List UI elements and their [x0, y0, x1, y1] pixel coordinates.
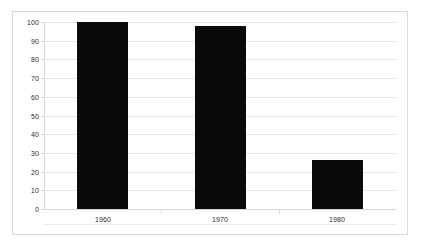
x-tick-label: 1960: [83, 216, 123, 223]
chart-container: 0102030405060708090100 196019701980: [12, 11, 408, 235]
y-tick-label: 30: [15, 150, 39, 157]
y-tick-mark: [41, 59, 44, 60]
y-tick-mark: [41, 134, 44, 135]
y-tick-label: 100: [15, 19, 39, 26]
bar[interactable]: [77, 22, 128, 209]
y-tick-mark: [41, 153, 44, 154]
x-tick-label: 1980: [317, 216, 357, 223]
y-tick-mark: [41, 97, 44, 98]
gridline: [44, 209, 396, 210]
bar[interactable]: [312, 160, 363, 209]
plot-area: [44, 22, 396, 209]
y-tick-label: 70: [15, 75, 39, 82]
y-tick-mark: [41, 41, 44, 42]
y-tick-label: 20: [15, 169, 39, 176]
y-tick-mark: [41, 190, 44, 191]
y-tick-mark: [41, 22, 44, 23]
x-axis-line: [44, 224, 396, 225]
y-tick-mark: [41, 78, 44, 79]
bar[interactable]: [195, 26, 246, 209]
y-tick-label: 50: [15, 113, 39, 120]
x-tick-mark: [161, 210, 162, 214]
y-tick-label: 90: [15, 38, 39, 45]
y-tick-label: 10: [15, 187, 39, 194]
y-tick-label: 80: [15, 56, 39, 63]
y-tick-label: 40: [15, 131, 39, 138]
y-tick-label: 0: [15, 206, 39, 213]
y-tick-mark: [41, 172, 44, 173]
y-axis: 0102030405060708090100: [13, 12, 39, 236]
y-tick-mark: [41, 116, 44, 117]
x-tick-mark: [279, 210, 280, 214]
y-tick-label: 60: [15, 94, 39, 101]
x-tick-label: 1970: [200, 216, 240, 223]
y-tick-mark: [41, 209, 44, 210]
